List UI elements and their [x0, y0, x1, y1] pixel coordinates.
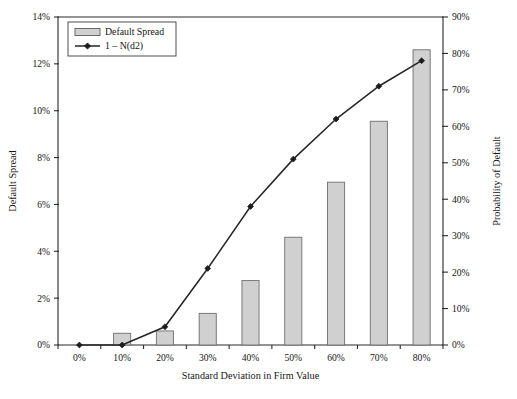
bar[interactable]: [242, 281, 259, 345]
chart-figure: 0%2%4%6%8%10%12%14%0%10%20%30%40%50%60%7…: [0, 0, 517, 399]
y2-axis-tick-label: 40%: [452, 194, 470, 205]
default-spread-probability-chart: 0%2%4%6%8%10%12%14%0%10%20%30%40%50%60%7…: [0, 0, 517, 399]
y-axis-tick-label: 8%: [37, 152, 50, 163]
y-axis-tick-label: 2%: [37, 293, 50, 304]
x-axis-tick-label: 80%: [413, 352, 431, 363]
y-axis-title: Default Spread: [7, 150, 18, 211]
bar[interactable]: [285, 237, 302, 345]
x-axis-tick-label: 70%: [370, 352, 388, 363]
line-marker[interactable]: [76, 342, 82, 348]
y2-axis-tick-label: 10%: [452, 303, 470, 314]
y-axis-tick-label: 0%: [37, 339, 50, 350]
x-axis-tick-label: 30%: [199, 352, 217, 363]
y-axis-tick-label: 12%: [32, 58, 50, 69]
y2-axis-tick-label: 70%: [452, 84, 470, 95]
y2-axis-tick-label: 30%: [452, 230, 470, 241]
x-axis-tick-label: 20%: [156, 352, 174, 363]
y2-axis-tick-label: 90%: [452, 11, 470, 22]
y2-axis-tick-label: 60%: [452, 121, 470, 132]
bar[interactable]: [156, 331, 173, 345]
bar[interactable]: [328, 182, 345, 345]
x-axis-tick-label: 10%: [113, 352, 131, 363]
y-axis-tick-label: 6%: [37, 199, 50, 210]
y2-axis-tick-label: 80%: [452, 48, 470, 59]
legend: Default Spread1 – N(d2): [68, 22, 176, 56]
x-axis-tick-label: 0%: [73, 352, 86, 363]
bar[interactable]: [199, 313, 216, 345]
y-axis-tick-label: 4%: [37, 246, 50, 257]
legend-swatch-default-spread: [75, 29, 100, 36]
bar[interactable]: [370, 121, 387, 345]
x-axis-tick-label: 40%: [242, 352, 260, 363]
legend-label-default-spread: Default Spread: [105, 26, 164, 37]
y-axis-tick-label: 14%: [32, 11, 50, 22]
y2-axis-tick-label: 20%: [452, 267, 470, 278]
x-axis-title: Standard Deviation in Firm Value: [182, 370, 320, 381]
bar[interactable]: [413, 50, 430, 345]
y2-axis-title: Probability of Default: [491, 136, 502, 226]
x-axis-tick-label: 50%: [284, 352, 302, 363]
y2-axis-tick-label: 50%: [452, 157, 470, 168]
y-axis-tick-label: 10%: [32, 105, 50, 116]
y2-axis-tick-label: 0%: [452, 339, 465, 350]
legend-label-nd2: 1 – N(d2): [105, 40, 143, 52]
x-axis-tick-label: 60%: [327, 352, 345, 363]
